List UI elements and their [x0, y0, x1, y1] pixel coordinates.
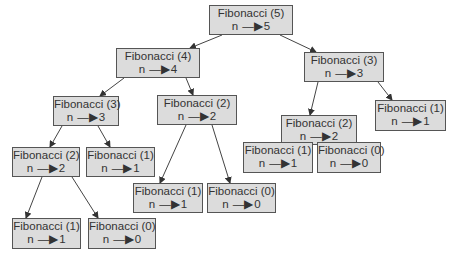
tree-node-f4: Fibonacci (4) n —▶4: [116, 48, 200, 78]
node-value-line: n —▶0: [318, 157, 380, 170]
arrow-right-icon: —▶: [159, 198, 180, 211]
node-value: 1: [181, 198, 187, 210]
node-value: 2: [59, 162, 65, 174]
edge-f4-to-f2m: [186, 78, 193, 95]
node-value-line: n —▶4: [117, 63, 199, 76]
tree-node-f1lb: Fibonacci (1) n —▶1: [12, 218, 81, 249]
node-title: Fibonacci (2): [158, 97, 236, 110]
edge-f2l-to-f0lb: [72, 177, 98, 218]
edge-f3r-to-f2r: [310, 82, 318, 115]
edge-f3l-to-f2l: [50, 126, 62, 147]
node-value: 1: [59, 233, 65, 245]
node-title: Fibonacci (0): [208, 185, 275, 198]
node-n-label: n: [67, 111, 73, 123]
node-value: 2: [210, 110, 216, 122]
node-title: Fibonacci (2): [13, 149, 79, 162]
arrow-right-icon: —▶: [188, 110, 209, 123]
node-value-line: n —▶1: [13, 233, 80, 246]
arrow-right-icon: —▶: [38, 233, 59, 246]
edge-f3l-to-f1l: [98, 126, 110, 147]
tree-node-f1l: Fibonacci (1) n —▶1: [86, 147, 155, 177]
node-n-label: n: [391, 115, 397, 127]
arrow-right-icon: —▶: [112, 162, 133, 175]
node-title: Fibonacci (3): [305, 54, 383, 67]
arrow-right-icon: —▶: [402, 115, 423, 128]
edge-f4-to-f3l: [100, 78, 124, 96]
node-n-label: n: [232, 20, 238, 32]
node-value-line: n —▶0: [89, 233, 155, 246]
node-title: Fibonacci (1): [376, 102, 445, 115]
tree-node-f1rr: Fibonacci (1) n —▶1: [375, 100, 446, 131]
node-value: 4: [171, 63, 177, 75]
edge-f5-to-f3r: [280, 35, 316, 52]
node-value: 1: [133, 162, 139, 174]
arrow-right-icon: —▶: [113, 233, 134, 246]
node-value: 5: [264, 20, 270, 32]
node-value: 0: [254, 198, 260, 210]
arrow-right-icon: —▶: [149, 63, 170, 76]
node-n-label: n: [101, 162, 107, 174]
arrow-right-icon: —▶: [340, 157, 361, 170]
node-value: 1: [291, 157, 297, 169]
node-value-line: n —▶1: [87, 162, 154, 175]
node-n-label: n: [330, 157, 336, 169]
edge-f3r-to-f1rr: [378, 82, 392, 100]
tree-node-f0rb: Fibonacci (0) n —▶0: [317, 142, 381, 173]
tree-node-f3l: Fibonacci (3) n —▶3: [53, 96, 119, 126]
node-value: 0: [135, 233, 141, 245]
node-n-label: n: [139, 63, 145, 75]
node-value-line: n —▶3: [54, 111, 118, 124]
tree-node-f1rb: Fibonacci (1) n —▶1: [243, 142, 313, 173]
edge-f2m-to-f1m: [160, 125, 186, 183]
node-value: 1: [423, 115, 429, 127]
arrow-right-icon: —▶: [77, 111, 98, 124]
arrow-right-icon: —▶: [233, 198, 254, 211]
node-value: 3: [357, 67, 363, 79]
node-title: Fibonacci (1): [87, 149, 154, 162]
node-value-line: n —▶1: [244, 157, 312, 170]
arrow-right-icon: —▶: [335, 67, 356, 80]
node-value-line: n —▶1: [376, 115, 445, 128]
node-n-label: n: [325, 67, 331, 79]
arrow-right-icon: —▶: [37, 162, 58, 175]
tree-node-f2m: Fibonacci (2) n —▶2: [157, 95, 237, 125]
node-title: Fibonacci (0): [89, 220, 155, 233]
node-n-label: n: [103, 233, 109, 245]
tree-node-f0m: Fibonacci (0) n —▶0: [207, 183, 276, 213]
node-n-label: n: [149, 198, 155, 210]
node-n-label: n: [300, 130, 306, 142]
node-value: 0: [362, 157, 368, 169]
arrow-right-icon: —▶: [242, 20, 263, 33]
node-n-label: n: [27, 162, 33, 174]
node-value: 3: [99, 111, 105, 123]
node-value-line: n —▶1: [134, 198, 202, 211]
node-value-line: n —▶5: [210, 20, 292, 33]
node-title: Fibonacci (3): [54, 98, 118, 111]
node-title: Fibonacci (1): [13, 220, 80, 233]
tree-node-f0lb: Fibonacci (0) n —▶0: [88, 218, 156, 249]
node-title: Fibonacci (0): [318, 144, 380, 157]
node-value-line: n —▶0: [208, 198, 275, 211]
node-n-label: n: [178, 110, 184, 122]
tree-node-f2l: Fibonacci (2) n —▶2: [12, 147, 80, 177]
node-n-label: n: [259, 157, 265, 169]
node-value: 2: [332, 130, 338, 142]
tree-node-f3r: Fibonacci (3) n —▶3: [304, 52, 384, 82]
arrow-right-icon: —▶: [269, 157, 290, 170]
edge-f2m-to-f0m: [212, 125, 230, 183]
edge-f2l-to-f1lb: [26, 177, 42, 218]
node-title: Fibonacci (1): [244, 144, 312, 157]
tree-node-f5: Fibonacci (5) n —▶5: [209, 5, 293, 35]
node-n-label: n: [222, 198, 228, 210]
tree-node-f1m: Fibonacci (1) n —▶1: [133, 183, 203, 213]
node-title: Fibonacci (4): [117, 50, 199, 63]
node-title: Fibonacci (1): [134, 185, 202, 198]
tree-node-f2r: Fibonacci (2) n —▶2: [281, 115, 357, 145]
node-title: Fibonacci (2): [282, 117, 356, 130]
fibonacci-recursion-tree: Fibonacci (5) n —▶5 Fibonacci (4) n —▶4 …: [0, 0, 449, 255]
node-title: Fibonacci (5): [210, 7, 292, 20]
node-n-label: n: [27, 233, 33, 245]
node-value-line: n —▶2: [13, 162, 79, 175]
node-value-line: n —▶2: [158, 110, 236, 123]
node-value-line: n —▶3: [305, 67, 383, 80]
